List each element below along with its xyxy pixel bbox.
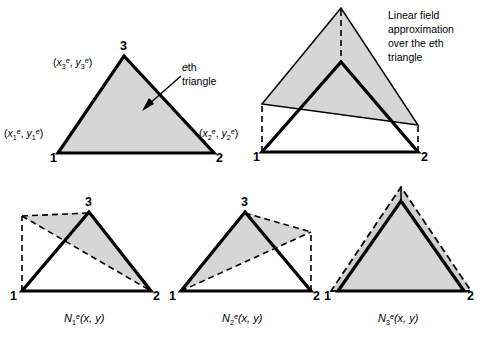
eth-triangle-annotation-line2: triangle — [182, 75, 217, 87]
coordinate-label-vertex-3: (x3e, y3e) — [53, 56, 92, 71]
n3-caption: N3e(x, y) — [378, 312, 419, 327]
n3-base-triangle-fill — [338, 201, 464, 291]
vertex-label-2: 2 — [421, 150, 428, 164]
eth-triangle-annotation-line1: eth — [182, 61, 197, 73]
vertex-label-3: 3 — [241, 195, 248, 209]
linear-field-annotation-line2: approximation — [388, 23, 454, 35]
coordinate-label-vertex-2: (x2e, y2e) — [199, 127, 238, 142]
vertex-label-1: 1 — [10, 289, 17, 303]
finite-element-shape-function-figure: 1 2 3 (x3e, y3e) (x1e, y1e) (x2e, y2e) e… — [0, 0, 483, 340]
panel-eth-triangle: 1 2 3 (x3e, y3e) (x1e, y1e) (x2e, y2e) e… — [4, 39, 238, 165]
linear-field-annotation-line4: triangle — [388, 51, 423, 63]
linear-field-annotation-line1: Linear field — [388, 9, 440, 21]
n2-caption: N2e(x, y) — [222, 312, 263, 327]
vertex-label-3: 3 — [120, 39, 127, 53]
panel-shape-function-n2: 1 2 3 N2e(x, y) — [169, 195, 320, 327]
coordinate-label-vertex-1: (x1e, y1e) — [4, 127, 43, 142]
n1-surface-fill — [22, 212, 151, 291]
vertex-label-2: 2 — [153, 289, 160, 303]
vertex-label-1: 1 — [324, 289, 331, 303]
vertex-label-3: 3 — [85, 195, 92, 209]
vertex-label-1: 1 — [50, 151, 57, 165]
vertex-label-1: 1 — [169, 289, 176, 303]
panel-shape-function-n3: 1 2 N3e(x, y) — [324, 187, 474, 327]
vertex-label-1: 1 — [253, 150, 260, 164]
vertex-label-2: 2 — [313, 289, 320, 303]
linear-field-annotation-line3: over the eth — [388, 37, 444, 49]
n2-surface-fill — [181, 212, 311, 291]
vertex-label-2: 2 — [216, 151, 223, 165]
panel-shape-function-n1: 1 2 3 N1e(x, y) — [10, 195, 160, 327]
panel-linear-field-approximation: 1 2 Linear field approximation over the … — [253, 8, 454, 164]
vertex-label-2: 2 — [467, 289, 474, 303]
n1-caption: N1e(x, y) — [64, 312, 105, 327]
